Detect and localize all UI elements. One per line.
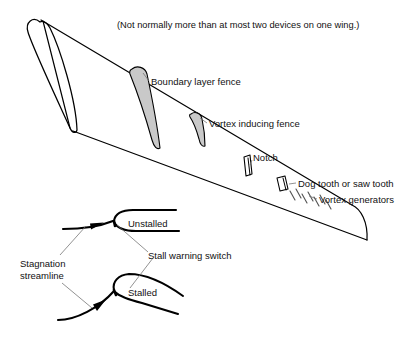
label-stagnation-streamline-line1: Stagnation <box>20 258 65 269</box>
label-stalled: Stalled <box>128 287 157 298</box>
vortex-generator-vane <box>302 194 307 203</box>
label-unstalled: Unstalled <box>128 218 168 229</box>
vortex-generator-vane <box>290 191 295 200</box>
label-vortex-generators: Vortex generators <box>319 194 394 205</box>
label-notch: Notch <box>253 152 278 163</box>
stalled-stall-warning-switch <box>114 290 116 295</box>
leader-stall-warning-switch-stalled <box>130 258 153 288</box>
leader-vortex-generators <box>309 196 317 199</box>
stall-devices-diagram: (Not normally more than at most two devi… <box>0 0 420 338</box>
label-stagnation-streamline-line2: streamline <box>20 270 64 281</box>
leader-stagnation-unstalled <box>60 226 86 255</box>
diagram-canvas: (Not normally more than at most two devi… <box>0 0 420 338</box>
label-boundary-layer-fence: Boundary layer fence <box>151 76 241 87</box>
leader-dog-tooth <box>289 183 296 184</box>
vortex-inducing-fence <box>190 113 205 147</box>
unstalled-flow-arrowhead <box>90 223 104 230</box>
stalled-stagnation-streamline <box>58 291 114 320</box>
note-text: (Not normally more than at most two devi… <box>117 20 359 30</box>
vortex-generator-vane <box>296 189 301 198</box>
unstalled-stall-warning-switch <box>114 221 115 226</box>
label-vortex-inducing-fence: Vortex inducing fence <box>209 118 300 129</box>
stalled-section <box>58 274 183 320</box>
leader-stall-warning-switch-unstalled <box>117 225 148 252</box>
stalled-flow-arrowhead <box>93 300 106 312</box>
label-dog-tooth: Dog tooth or saw tooth <box>298 178 394 189</box>
leader-stagnation-stalled <box>62 283 92 308</box>
dog-tooth <box>277 176 288 191</box>
unstalled-stagnation-streamline <box>63 221 113 229</box>
label-stall-warning-switch: Stall warning switch <box>148 250 231 261</box>
